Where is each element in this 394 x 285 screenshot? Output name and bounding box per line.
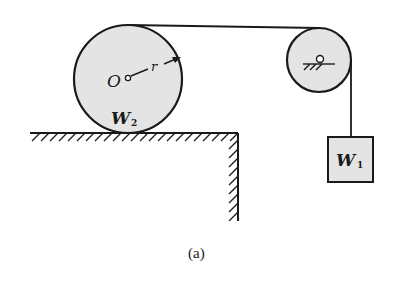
- center-point-o: [125, 75, 130, 80]
- block-w1: W 1: [328, 137, 373, 182]
- figure-caption: (a): [188, 245, 205, 262]
- ground-ledge: [30, 133, 238, 221]
- weight-subscript-1: 1: [357, 160, 363, 170]
- radius-label-r: r: [151, 59, 158, 74]
- weight-label-w1: W: [336, 150, 357, 170]
- pulley: [287, 28, 351, 92]
- mechanics-diagram: O r W 2 W 1 (a): [0, 0, 394, 285]
- disk-w2: O r W 2: [74, 25, 182, 133]
- center-label-o: O: [107, 71, 121, 91]
- weight-subscript-2: 2: [131, 118, 137, 128]
- wall-hatching: [229, 140, 238, 221]
- floor-hatching: [32, 133, 238, 141]
- weight-label-w2: W: [111, 108, 132, 128]
